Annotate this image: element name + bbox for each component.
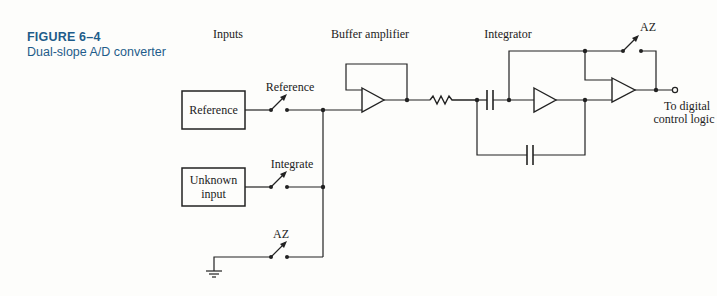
unknown-input-label-2: input	[201, 187, 226, 201]
output-label-2: control logic	[654, 112, 715, 126]
az-input-switch: AZ	[214, 227, 289, 271]
reference-switch-label: Reference	[266, 80, 315, 94]
reference-block: Reference	[182, 91, 245, 129]
inputs-label: Inputs	[213, 27, 243, 41]
reference-block-label: Reference	[189, 103, 238, 117]
buffer-amplifier-label: Buffer amplifier	[331, 27, 409, 41]
resistor	[430, 96, 477, 104]
unknown-input-block: Unknown input	[182, 168, 245, 206]
integrator	[477, 88, 612, 165]
integrate-switch: Integrate	[269, 157, 313, 189]
unknown-input-label-1: Unknown	[190, 173, 237, 187]
az-input-switch-label: AZ	[273, 227, 289, 241]
schematic: Inputs Buffer amplifier Integrator Refer…	[0, 0, 717, 296]
az-output-switch-label: AZ	[640, 20, 656, 34]
reference-switch: Reference	[266, 80, 315, 112]
az-output-switch: AZ	[621, 20, 656, 90]
output-label-1: To digital	[664, 99, 711, 113]
ground-icon	[206, 271, 222, 277]
integrator-label: Integrator	[484, 27, 531, 41]
integrate-switch-label: Integrate	[271, 157, 314, 171]
buffer-amplifier	[346, 64, 430, 112]
